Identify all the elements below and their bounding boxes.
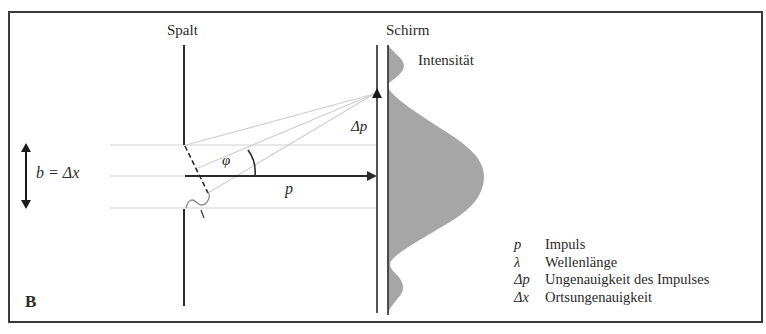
slit-label: Spalt	[167, 22, 198, 39]
screen-label: Schirm	[386, 22, 429, 39]
ray-3	[208, 94, 374, 193]
legend-symbol: Δp	[514, 271, 545, 289]
slit-width-label: b = Δx	[36, 164, 79, 182]
panel-label: B	[25, 292, 36, 312]
legend-text: Ortsungenauigkeit	[545, 289, 652, 307]
legend-item: p Impuls	[514, 236, 709, 254]
legend-item: Δp Ungenauigkeit des Impulses	[514, 271, 709, 289]
intensity-label: Intensität	[418, 52, 474, 69]
legend-item: λ Wellenlänge	[514, 254, 709, 272]
momentum-arrowhead	[367, 171, 377, 181]
legend-symbol: λ	[514, 254, 545, 272]
legend-symbol: p	[514, 236, 545, 254]
ray-1	[186, 94, 374, 145]
legend: p Impuls λ Wellenlänge Δp Ungenauigkeit …	[514, 236, 709, 306]
legend-text: Wellenlänge	[545, 254, 617, 272]
wavelength-tick	[201, 210, 204, 218]
slit-width-arrowhead-down	[21, 200, 31, 209]
angle-label: φ	[222, 152, 230, 169]
slit-width-arrowhead-up	[21, 143, 31, 152]
angle-arc	[248, 150, 255, 176]
intensity-profile	[388, 45, 484, 312]
legend-item: Δx Ortsungenauigkeit	[514, 289, 709, 307]
delta-p-label: Δp	[351, 118, 367, 135]
delta-p-arrowhead	[372, 88, 382, 98]
wave-curve	[186, 193, 209, 208]
legend-symbol: Δx	[514, 289, 545, 307]
legend-text: Impuls	[545, 236, 585, 254]
wavefront-dashed	[185, 146, 208, 193]
momentum-label: p	[285, 180, 293, 198]
legend-text: Ungenauigkeit des Impulses	[545, 271, 709, 289]
